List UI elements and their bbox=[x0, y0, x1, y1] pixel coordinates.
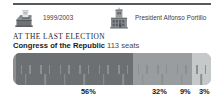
percentage-label-2: 32% bbox=[152, 87, 167, 96]
figure-arm-right bbox=[29, 65, 30, 74]
figure-leg-split bbox=[142, 74, 144, 85]
figure-arm-left bbox=[157, 65, 158, 74]
figure-leg-split bbox=[181, 74, 183, 85]
figure-head bbox=[158, 55, 166, 63]
figure-arm-right bbox=[146, 65, 147, 74]
header-row: 1999/2003 bbox=[13, 7, 213, 31]
ballot-box-icon bbox=[13, 7, 35, 29]
pictogram-figure bbox=[133, 53, 153, 85]
figure-leg-split bbox=[25, 74, 27, 85]
figure-arm-right bbox=[88, 65, 89, 74]
figure-arm-left bbox=[40, 65, 41, 74]
figure-arm-right bbox=[166, 65, 167, 74]
top-divider-rule bbox=[13, 3, 211, 5]
government-building-icon bbox=[108, 7, 130, 29]
figure-arm-left bbox=[118, 65, 119, 74]
term-label: 1999/2003 bbox=[43, 14, 73, 21]
figure-head bbox=[139, 55, 147, 63]
figure-head bbox=[119, 55, 127, 63]
figure-leg-split bbox=[161, 74, 163, 85]
figure-leg-split bbox=[83, 74, 85, 85]
pictogram-figure bbox=[192, 53, 212, 85]
figure-head bbox=[100, 55, 108, 63]
pictogram-figure bbox=[94, 53, 114, 85]
figure-arm-left bbox=[138, 65, 139, 74]
pictogram-figure bbox=[55, 53, 75, 85]
figure-arm-right bbox=[49, 65, 50, 74]
president-info: President Alfonso Portillo bbox=[108, 7, 213, 29]
figure-arm-left bbox=[177, 65, 178, 74]
figure-head bbox=[22, 55, 30, 63]
figure-arm-left bbox=[60, 65, 61, 74]
chamber-name: Congress of the Republic bbox=[13, 41, 105, 50]
figure-head bbox=[80, 55, 88, 63]
percentage-label-4: 3% bbox=[199, 87, 210, 96]
figure-head bbox=[197, 55, 205, 63]
figure-strip bbox=[13, 53, 211, 85]
figure-arm-right bbox=[68, 65, 69, 74]
pictogram-figure bbox=[36, 53, 56, 85]
figure-leg-split bbox=[122, 74, 124, 85]
figure-arm-right bbox=[107, 65, 108, 74]
figure-head bbox=[178, 55, 186, 63]
figure-leg-split bbox=[103, 74, 105, 85]
figure-leg-split bbox=[200, 74, 202, 85]
pictogram-figure bbox=[114, 53, 134, 85]
chamber-line: Congress of the Republic113 seats bbox=[13, 41, 139, 50]
figure-arm-right bbox=[205, 65, 206, 74]
figure-arm-right bbox=[185, 65, 186, 74]
figure-arm-left bbox=[99, 65, 100, 74]
pictogram-figure bbox=[153, 53, 173, 85]
pictogram-figure bbox=[172, 53, 192, 85]
figure-leg-split bbox=[44, 74, 46, 85]
figure-leg-split bbox=[64, 74, 66, 85]
figure-head bbox=[61, 55, 69, 63]
term-info: 1999/2003 bbox=[13, 7, 108, 29]
figure-arm-right bbox=[127, 65, 128, 74]
figure-head bbox=[41, 55, 49, 63]
figure-arm-left bbox=[79, 65, 80, 74]
pictogram-figure bbox=[16, 53, 36, 85]
figure-arm-left bbox=[21, 65, 22, 74]
seat-share-pictogram bbox=[13, 53, 211, 85]
percentage-label-3: 9% bbox=[180, 87, 191, 96]
pictogram-figure bbox=[75, 53, 95, 85]
figure-arm-left bbox=[196, 65, 197, 74]
president-label: President Alfonso Portillo bbox=[135, 14, 207, 21]
percentage-label-1: 56% bbox=[81, 87, 96, 96]
section-heading: AT THE LAST ELECTION bbox=[13, 32, 105, 41]
seats-count: 113 seats bbox=[107, 41, 139, 50]
